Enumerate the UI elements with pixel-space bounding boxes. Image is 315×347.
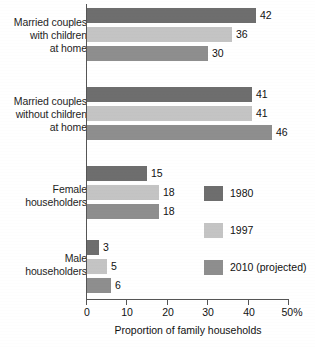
legend-label: 2010 (projected) [230,260,306,275]
bar-male-householders-1997 [87,259,107,274]
bar-value: 18 [163,204,175,219]
category-label-line: Married couples [1,16,87,29]
x-axis-tick [207,300,208,305]
bar-value: 3 [103,240,109,255]
bar-male-householders-2010 [87,278,111,293]
category-label-line: Married couples [1,95,87,108]
legend-swatch-icon [204,223,223,238]
x-axis-tick-label: 10 [121,306,133,319]
bar-value: 42 [260,8,272,23]
category-label-line: householders [1,265,87,278]
bar-value: 36 [236,27,248,42]
bar-value: 41 [256,87,268,102]
category-label-married-with-children: Married couples with children at home [1,16,87,56]
category-label-line: at home [1,121,87,134]
category-label-female-householders: Female householders [1,183,87,209]
category-label-line: Female [1,183,87,196]
x-axis-tick-label: 0 [84,306,90,319]
x-axis-tick [167,300,168,305]
bar-value: 5 [111,259,117,274]
bar-married-with-children-1997 [87,27,232,42]
bar-chart: Married couples with children at home Ma… [0,0,315,347]
bar-married-with-children-2010 [87,46,208,61]
bar-value: 41 [256,106,268,121]
bar-female-householders-1980 [87,166,147,181]
bar-value: 18 [163,185,175,200]
x-axis-line [86,299,289,300]
x-axis-tick [248,300,249,305]
bar-value: 46 [276,125,288,140]
category-label-line: with children [1,29,87,42]
category-label-line: Male [1,252,87,265]
x-axis-title: Proportion of family households [87,324,289,336]
category-label-line: householders [1,196,87,209]
category-label-line: at home [1,42,87,55]
bar-married-without-children-1997 [87,106,252,121]
x-axis-tick [86,300,87,305]
bar-value: 6 [115,278,121,293]
bar-married-without-children-1980 [87,87,252,102]
x-axis-tick-label: 20 [162,306,174,319]
x-axis-tick [126,300,127,305]
bar-married-without-children-2010 [87,125,272,140]
bar-male-householders-1980 [87,240,99,255]
x-axis-tick-label: 30 [202,306,214,319]
legend-label: 1997 [230,223,253,238]
bar-married-with-children-1980 [87,8,256,23]
category-label-line: without children [1,108,87,121]
x-axis-tick [288,300,289,305]
bar-female-householders-1997 [87,185,159,200]
bar-value: 30 [212,46,224,61]
bar-value: 15 [151,166,163,181]
legend-swatch-icon [204,186,223,201]
y-axis-line [86,4,87,300]
x-axis-tick-label: 50% [281,306,302,319]
bar-female-householders-2010 [87,204,159,219]
category-label-male-householders: Male householders [1,252,87,278]
legend-swatch-icon [204,260,223,275]
x-axis-tick-label: 40 [243,306,255,319]
category-label-married-without-children: Married couples without children at home [1,95,87,135]
legend-label: 1980 [230,186,253,201]
